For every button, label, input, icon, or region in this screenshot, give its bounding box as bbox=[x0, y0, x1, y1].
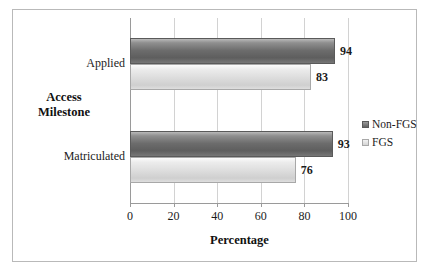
x-tick-label-60: 60 bbox=[241, 209, 281, 224]
x-tick-mark-0 bbox=[130, 203, 131, 207]
plot-area: 94839376 bbox=[130, 18, 348, 203]
legend-label-fgs: FGS bbox=[372, 136, 393, 148]
x-tick-label-20: 20 bbox=[154, 209, 194, 224]
chart-legend: Non-FGSFGS bbox=[362, 118, 420, 154]
bar-applied-fgs bbox=[130, 64, 311, 90]
x-tick-label-0: 0 bbox=[110, 209, 150, 224]
x-tick-mark-40 bbox=[217, 203, 218, 207]
bar-matriculated-non-fgs bbox=[130, 131, 333, 157]
bar-matriculated-fgs bbox=[130, 157, 296, 183]
legend-swatch-icon-fgs bbox=[362, 139, 369, 146]
legend-item-non-fgs[interactable]: Non-FGS bbox=[362, 118, 420, 130]
legend-label-non-fgs: Non-FGS bbox=[372, 118, 417, 130]
chart-figure: Access Milestone AppliedMatriculated 948… bbox=[0, 0, 430, 275]
x-tick-label-40: 40 bbox=[197, 209, 237, 224]
bar-value-label-applied-non-fgs: 94 bbox=[340, 38, 352, 64]
bar-value-label-applied-fgs: 83 bbox=[316, 64, 328, 90]
x-tick-label-80: 80 bbox=[284, 209, 324, 224]
x-axis-title: Percentage bbox=[130, 233, 349, 248]
y-axis-category-labels: AppliedMatriculated bbox=[20, 18, 125, 203]
x-tick-mark-100 bbox=[348, 203, 349, 207]
x-tick-mark-20 bbox=[174, 203, 175, 207]
legend-swatch-icon-non-fgs bbox=[362, 121, 369, 128]
bar-value-label-matriculated-non-fgs: 93 bbox=[338, 131, 350, 157]
x-tick-mark-60 bbox=[261, 203, 262, 207]
x-tick-label-100: 100 bbox=[328, 209, 368, 224]
bar-value-label-matriculated-fgs: 76 bbox=[301, 157, 313, 183]
x-axis-line bbox=[130, 203, 349, 204]
legend-item-fgs[interactable]: FGS bbox=[362, 136, 420, 148]
x-tick-mark-80 bbox=[304, 203, 305, 207]
y-axis-label-applied: Applied bbox=[86, 56, 125, 71]
bar-applied-non-fgs bbox=[130, 38, 335, 64]
y-axis-label-matriculated: Matriculated bbox=[64, 149, 125, 164]
